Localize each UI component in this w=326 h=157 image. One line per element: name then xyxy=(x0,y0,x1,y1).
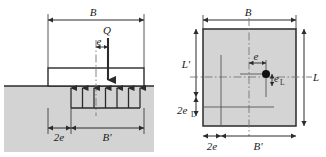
label-L-plan: L xyxy=(312,71,319,83)
label-Bprime-section: B' xyxy=(102,131,112,143)
figure-container: B Q e 2e B' xyxy=(0,0,326,157)
label-e-plan: e xyxy=(254,50,259,62)
plan-view-group: B L L' 2e L e e L 2e B' xyxy=(177,6,319,152)
label-2e-plan: 2e xyxy=(207,140,218,152)
section-view-group: B Q e 2e B' xyxy=(4,6,154,152)
label-B-section: B xyxy=(90,6,97,18)
label-Q-load: Q xyxy=(103,24,111,36)
label-eL-base: e xyxy=(274,72,279,84)
label-B-plan: B xyxy=(245,6,252,18)
label-e-section: e xyxy=(97,35,102,47)
figure-svg: B Q e 2e B' xyxy=(0,0,326,157)
label-2eL-plan: 2e L xyxy=(177,104,196,119)
label-2e-section: 2e xyxy=(54,131,65,143)
label-eL-subscript: L xyxy=(280,78,285,87)
label-Bprime-plan: B' xyxy=(253,140,263,152)
load-application-point xyxy=(262,70,270,78)
soil-mass xyxy=(4,86,154,152)
label-Lprime-plan: L' xyxy=(181,58,191,70)
label-2eL-subscript: L xyxy=(191,110,196,119)
label-2eL-base: 2e xyxy=(177,104,188,116)
